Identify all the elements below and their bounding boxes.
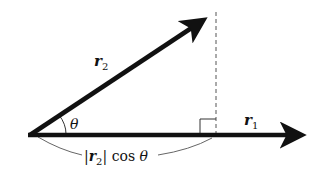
- angle-arc: [59, 115, 66, 134]
- vector-r2: [30, 21, 202, 135]
- label-projection: |r2| cos θ: [84, 149, 148, 167]
- label-theta: θ: [70, 117, 78, 131]
- label-r1: r1: [244, 113, 258, 131]
- diagram-graphics: [0, 0, 333, 176]
- vector-projection-diagram: r2 θ r1 |r2| cos θ: [0, 0, 333, 176]
- right-angle-marker: [200, 119, 216, 135]
- label-r2: r2: [94, 54, 108, 72]
